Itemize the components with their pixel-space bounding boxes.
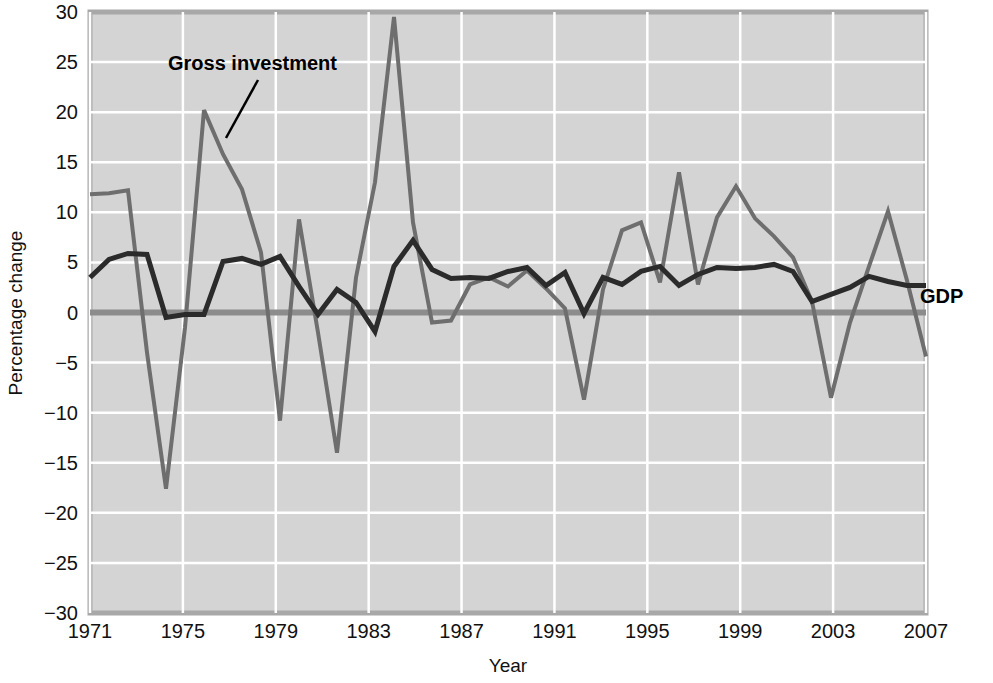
x-tick-label: 1979 [254,620,299,642]
y-tick-label: 20 [56,101,78,123]
x-tick-label: 1999 [718,620,763,642]
x-tick-label: 1995 [625,620,670,642]
y-tick-label: −20 [44,502,78,524]
x-tick-label: 1971 [68,620,113,642]
y-tick-label: 10 [56,201,78,223]
y-tick-label: 5 [67,251,78,273]
y-axis-tick-labels: 302520151050−5−10−15−20−25−30 [44,1,78,624]
gross-investment-label: Gross investment [168,52,337,74]
x-tick-label: 1975 [161,620,206,642]
y-tick-label: −5 [55,352,78,374]
x-axis-title: Year [489,655,528,676]
y-tick-label: 0 [67,302,78,324]
y-tick-label: −10 [44,402,78,424]
y-tick-label: 25 [56,51,78,73]
y-tick-label: −25 [44,552,78,574]
x-tick-label: 1991 [532,620,577,642]
x-tick-label: 2003 [811,620,856,642]
gdp-label: GDP [920,285,963,307]
x-tick-label: 2007 [904,620,949,642]
chart-container: 302520151050−5−10−15−20−25−30 1971197519… [0,0,993,683]
x-tick-label: 1987 [439,620,484,642]
line-chart: 302520151050−5−10−15−20−25−30 1971197519… [0,0,993,683]
x-tick-label: 1983 [346,620,391,642]
y-tick-label: −15 [44,452,78,474]
y-axis-title: Percentage change [5,231,26,396]
x-axis-tick-labels: 1971197519791983198719911995199920032007 [68,620,949,642]
y-tick-label: 30 [56,1,78,23]
y-tick-label: 15 [56,151,78,173]
